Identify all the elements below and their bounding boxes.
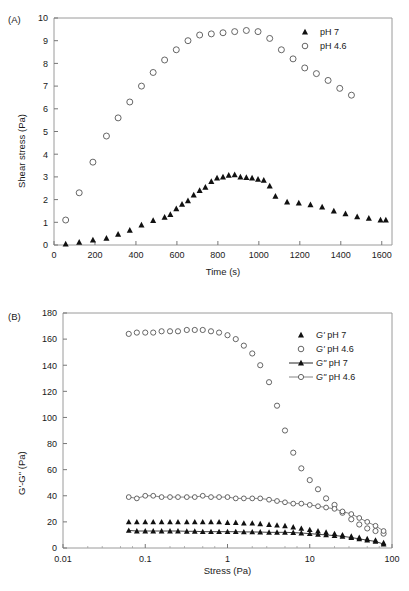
svg-text:60: 60	[47, 465, 57, 475]
svg-text:200: 200	[87, 250, 102, 260]
svg-text:10: 10	[305, 554, 315, 564]
panel-a-legend-entry-1: pH 4.6	[292, 39, 347, 53]
open-circle-icon	[288, 343, 314, 355]
svg-text:40: 40	[47, 491, 57, 501]
open-circle-icon	[288, 371, 314, 383]
svg-text:800: 800	[210, 250, 225, 260]
svg-text:160: 160	[42, 334, 57, 344]
svg-text:1400: 1400	[331, 250, 351, 260]
svg-text:600: 600	[169, 250, 184, 260]
svg-text:1600: 1600	[372, 250, 392, 260]
panel-a-legend: pH 7pH 4.6	[292, 25, 347, 53]
panel-b-legend-label-0: G' pH 7	[314, 330, 346, 340]
svg-text:1000: 1000	[249, 250, 269, 260]
svg-text:1: 1	[43, 218, 48, 228]
svg-text:20: 20	[47, 517, 57, 527]
svg-text:180: 180	[42, 308, 57, 318]
svg-text:10: 10	[38, 13, 48, 23]
svg-text:5: 5	[43, 127, 48, 137]
svg-text:120: 120	[42, 387, 57, 397]
svg-text:140: 140	[42, 361, 57, 371]
svg-text:0: 0	[51, 250, 56, 260]
svg-text:3: 3	[43, 172, 48, 182]
svg-text:8: 8	[43, 59, 48, 69]
svg-text:0: 0	[43, 240, 48, 250]
open-circle-icon	[292, 40, 318, 52]
panel-b-legend-entry-1: G' pH 4.6	[288, 342, 355, 356]
panel-a-legend-label-1: pH 4.6	[318, 41, 347, 51]
svg-text:2: 2	[43, 195, 48, 205]
svg-text:100: 100	[42, 413, 57, 423]
panel-b-legend-label-1: G' pH 4.6	[314, 344, 354, 354]
panel-a: (A) Shear stress (Pa) Time (s) 020040060…	[0, 0, 409, 295]
panel-b-legend: G' pH 7G' pH 4.6G" pH 7G" pH 4.6	[288, 328, 355, 384]
panel-b-legend-label-3: G" pH 4.6	[314, 372, 355, 382]
panel-b-legend-label-2: G" pH 7	[314, 358, 348, 368]
filled-triangle-icon	[288, 329, 314, 341]
svg-text:4: 4	[43, 150, 48, 160]
filled-triangle-icon	[292, 26, 318, 38]
svg-text:0.01: 0.01	[54, 554, 72, 564]
panel-a-legend-label-0: pH 7	[318, 27, 339, 37]
svg-text:0.1: 0.1	[139, 554, 152, 564]
svg-text:6: 6	[43, 104, 48, 114]
svg-text:7: 7	[43, 81, 48, 91]
panel-b-legend-entry-0: G' pH 7	[288, 328, 355, 342]
svg-text:80: 80	[47, 439, 57, 449]
panel-b-legend-entry-2: G" pH 7	[288, 356, 355, 370]
svg-text:1200: 1200	[290, 250, 310, 260]
svg-text:0: 0	[52, 543, 57, 553]
svg-text:100: 100	[384, 554, 399, 564]
panel-a-legend-entry-0: pH 7	[292, 25, 347, 39]
panel-b-legend-entry-3: G" pH 4.6	[288, 370, 355, 384]
svg-text:400: 400	[128, 250, 143, 260]
filled-triangle-icon	[288, 357, 314, 369]
panel-a-plot: 0200400600800100012001400160001234567891…	[0, 0, 409, 295]
svg-text:1: 1	[225, 554, 230, 564]
svg-text:9: 9	[43, 36, 48, 46]
